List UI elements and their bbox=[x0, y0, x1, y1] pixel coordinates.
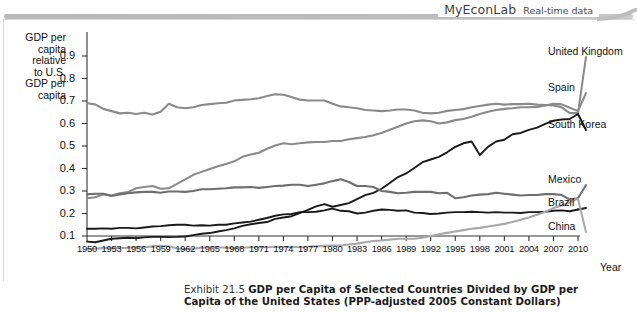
y-tick-label: 0.7 bbox=[49, 94, 75, 106]
line-chart-plot bbox=[0, 18, 637, 276]
series-label-united-kingdom: United Kingdom bbox=[548, 45, 623, 57]
y-tick-label: 0.1 bbox=[49, 229, 75, 241]
series-leader-china bbox=[578, 199, 586, 232]
chart-area: GDP per capita relative to U.S. GDP per … bbox=[0, 18, 637, 276]
y-tick-label: 0.2 bbox=[49, 207, 75, 219]
y-tick-label: 0.5 bbox=[49, 139, 75, 151]
series-line-spain bbox=[87, 104, 578, 199]
exhibit-caption: Exhibit 21.5 GDP per Capita of Selected … bbox=[184, 284, 614, 309]
axis-lines bbox=[87, 32, 580, 236]
y-tick-label: 0.3 bbox=[49, 184, 75, 196]
x-tick-label: 2010 bbox=[563, 244, 593, 254]
series-leader-lines bbox=[578, 57, 586, 232]
banner-swoosh-decoration bbox=[597, 8, 637, 24]
series-label-mexico: Mexico bbox=[548, 173, 581, 185]
swoosh-icon bbox=[597, 8, 637, 24]
series-leader-united-kingdom bbox=[578, 57, 586, 113]
series-line-brazil bbox=[87, 209, 578, 229]
real-time-data-label: Real-time data bbox=[523, 5, 593, 16]
data-series-lines bbox=[87, 94, 578, 249]
exhibit-number: Exhibit 21.5 bbox=[184, 284, 245, 295]
y-tick-label: 0.6 bbox=[49, 117, 75, 129]
myeconlab-brand: MyEconLab bbox=[444, 2, 516, 17]
y-tick-label: 0.9 bbox=[49, 49, 75, 61]
series-leader-brazil bbox=[578, 208, 586, 209]
series-label-brazil: Brazil bbox=[548, 196, 574, 208]
series-line-united-kingdom bbox=[87, 94, 578, 114]
x-axis-title: Year bbox=[600, 261, 621, 273]
series-label-spain: Spain bbox=[548, 81, 575, 93]
banner-label-group: MyEconLab Real-time data bbox=[438, 2, 599, 17]
exhibit-figure: MyEconLab Real-time data GDP per capita … bbox=[0, 0, 637, 312]
series-leader-mexico bbox=[578, 185, 586, 198]
caption-title-line-2: of the United States (PPP-adjusted 2005 … bbox=[224, 296, 561, 307]
y-axis-ticks bbox=[82, 56, 87, 236]
y-tick-label: 0.8 bbox=[49, 72, 75, 84]
series-label-south-korea: South Korea bbox=[548, 118, 606, 130]
y-tick-label: 0.4 bbox=[49, 162, 75, 174]
series-label-china: China bbox=[548, 220, 575, 232]
